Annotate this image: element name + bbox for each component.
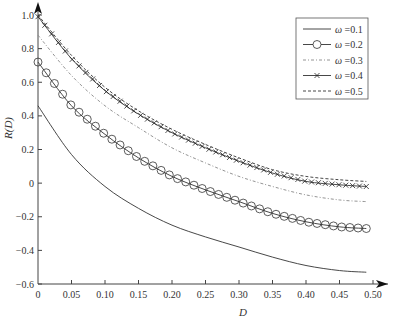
circle-marker	[149, 162, 157, 170]
circle-marker	[83, 115, 91, 123]
x-tick-label: 0.10	[96, 289, 114, 300]
cross-marker	[77, 63, 82, 68]
x-tick-label: 0.25	[197, 289, 215, 300]
cross-marker	[227, 155, 232, 160]
y-tick-label: −0.4	[16, 245, 34, 256]
cross-marker	[179, 135, 184, 140]
x-tick-label: 0.20	[163, 289, 181, 300]
cross-marker	[213, 149, 218, 154]
y-tick-label: 0	[29, 178, 34, 189]
cross-marker	[220, 152, 225, 157]
cross-marker	[234, 158, 239, 163]
circle-marker	[75, 108, 83, 116]
y-tick-label: 1.0	[22, 10, 35, 21]
circle-marker	[59, 90, 67, 98]
x-tick-label: 0.30	[230, 289, 248, 300]
x-tick-label: 0	[36, 289, 41, 300]
x-tick-label: 0.15	[130, 289, 148, 300]
y-tick-label: −0.6	[16, 279, 34, 290]
cross-marker	[138, 113, 143, 118]
x-tick-label: 0.40	[297, 289, 315, 300]
x-axis-label: D	[238, 306, 247, 318]
legend-circle-marker	[313, 41, 321, 49]
cross-marker	[165, 128, 170, 133]
y-tick-label: 0.8	[22, 43, 35, 54]
cross-marker	[206, 147, 211, 152]
cross-marker	[200, 144, 205, 149]
legend: ω =0.1ω =0.2ω =0.3ω =0.4ω =0.5	[296, 18, 368, 99]
legend-label: ω =0.3	[335, 55, 363, 66]
legend-label: ω =0.2	[335, 39, 363, 50]
x-tick-label: 0.45	[331, 289, 349, 300]
y-tick-label: 0.2	[22, 144, 35, 155]
circle-marker	[50, 79, 58, 87]
x-tick-label: 0.35	[264, 289, 282, 300]
circle-marker	[157, 166, 165, 174]
legend-label: ω =0.1	[335, 24, 363, 35]
cross-marker	[172, 131, 177, 136]
cross-marker	[241, 160, 246, 165]
legend-label: ω =0.5	[335, 86, 363, 97]
cross-marker	[97, 83, 102, 88]
circle-marker	[116, 141, 124, 149]
cross-marker	[186, 138, 191, 143]
legend-label: ω =0.4	[335, 70, 363, 81]
line-chart: 00.050.100.150.200.250.300.350.400.450.5…	[0, 0, 399, 321]
circle-marker	[91, 122, 99, 130]
y-tick-label: −0.2	[16, 211, 34, 222]
y-tick-label: 0.4	[22, 110, 35, 121]
cross-marker	[193, 141, 198, 146]
y-tick-label: 0.6	[22, 77, 35, 88]
y-axis-label: R(D)	[2, 117, 15, 140]
x-tick-label: 0.05	[63, 289, 81, 300]
x-tick-label: 0.50	[364, 289, 382, 300]
